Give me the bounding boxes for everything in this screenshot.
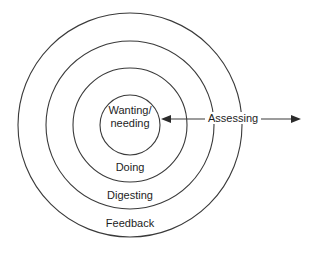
ring-label-wanting-needing: Wanting/ needing [95, 104, 165, 130]
ring-label-feedback: Feedback [90, 217, 170, 230]
assessing-label: Assessing [205, 112, 261, 124]
ring-label-doing: Doing [95, 161, 165, 174]
ring-label-wanting-needing-line1: Wanting/ [95, 104, 165, 117]
ring-label-wanting-needing-line2: needing [95, 117, 165, 130]
ring-label-digesting: Digesting [90, 189, 170, 202]
diagram-canvas: Wanting/ needing Doing Digesting Feedbac… [0, 0, 313, 255]
assessing-arrowhead-right [291, 115, 301, 123]
